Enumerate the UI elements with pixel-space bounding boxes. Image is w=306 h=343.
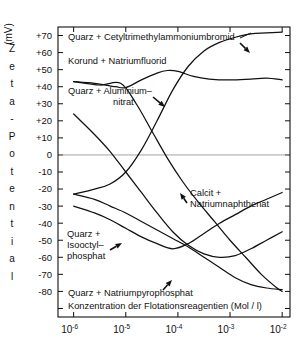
- ann-iso-line1: Quarz +: [67, 229, 100, 239]
- y-tick-label: +60: [36, 47, 52, 58]
- y-axis-title-letter: o: [9, 148, 15, 159]
- y-tick-label: -20: [38, 183, 52, 194]
- y-axis-unit: (mV): [3, 23, 14, 45]
- y-tick-label: -10: [38, 166, 52, 177]
- y-tick-label: -50: [38, 235, 52, 246]
- ann-iso-line2: Isooctyl–: [67, 240, 105, 250]
- y-tick-label: +10: [36, 132, 52, 143]
- y-tick-label: -40: [38, 218, 52, 229]
- ann-calcit-line1: Calcit +: [190, 188, 221, 198]
- ann-pyro: Quarz + Natriumpyrophosphat: [68, 288, 193, 298]
- chart-root: Zeta-Potential (mV) +70+60+50+40+30+20+1…: [0, 0, 306, 343]
- y-axis-title-letter: e: [9, 61, 15, 72]
- y-tick-label: -80: [38, 286, 52, 297]
- y-axis-title-letter: t: [11, 78, 14, 89]
- y-tick-label: -30: [38, 201, 52, 212]
- y-tick-label: 0: [47, 149, 52, 160]
- ann-cetyl: Quarz + Cetyltrimethylammoniumbromid: [68, 32, 235, 42]
- y-tick-label: -60: [38, 252, 52, 263]
- y-tick-label: +30: [36, 98, 52, 109]
- y-axis-title-letter: P: [9, 131, 16, 142]
- y-tick-label: -70: [38, 269, 52, 280]
- y-axis-title-letter: t: [11, 166, 14, 177]
- y-axis-title-letter: a: [9, 253, 15, 264]
- zeta-potential-chart: Zeta-Potential (mV) +70+60+50+40+30+20+1…: [0, 0, 306, 343]
- y-tick-label: +20: [36, 115, 52, 126]
- y-axis-title-letter: l: [11, 271, 13, 282]
- y-axis-title-letter: n: [9, 201, 15, 212]
- ann-xaxis: Konzentration der Flotationsreagentien (…: [68, 301, 262, 311]
- y-tick-label: +40: [36, 81, 52, 92]
- y-tick-label: +70: [36, 30, 52, 41]
- y-tick-label: +50: [36, 64, 52, 75]
- ann-korund: Korund + Natriumfluorid: [68, 56, 166, 66]
- ann-iso-line3: phosphat: [67, 251, 106, 261]
- y-axis-title-letter: t: [11, 218, 14, 229]
- ann-calcit-line2: Natriumnaphthenat: [190, 199, 269, 209]
- y-axis-title-letter: -: [10, 113, 13, 124]
- y-axis-title-letter: e: [9, 183, 15, 194]
- y-axis-title-letter: i: [11, 236, 13, 247]
- ann-alu-line2: nitrat: [113, 97, 134, 107]
- ann-alu-line1: Quarz + Aluminium–: [68, 86, 153, 96]
- y-axis-title-letter: a: [9, 96, 15, 107]
